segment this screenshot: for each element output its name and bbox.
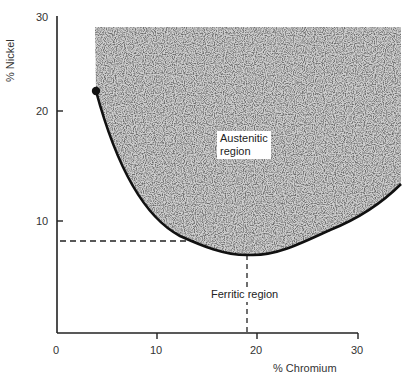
y-axis-label: % Nickel [4, 39, 16, 82]
y-tick-label-30: 30 [36, 11, 48, 23]
austenitic-label-line1: Austenitic [220, 132, 268, 145]
x-tick-label-10: 10 [150, 344, 162, 356]
x-axis-label: % Chromium [273, 362, 337, 374]
y-tick-label-20: 20 [36, 105, 48, 117]
austenitic-label-line2: region [220, 145, 268, 158]
x-tick-label-20: 20 [250, 344, 262, 356]
x-tick-label-0: 0 [53, 344, 59, 356]
chart-canvas [0, 0, 410, 382]
x-tick-label-30: 30 [351, 344, 363, 356]
ferritic-region-label: Ferritic region [208, 287, 281, 302]
y-tick-label-10: 10 [36, 215, 48, 227]
austenitic-region-label: Austenitic region [217, 131, 271, 159]
boundary-start-point [92, 87, 100, 95]
